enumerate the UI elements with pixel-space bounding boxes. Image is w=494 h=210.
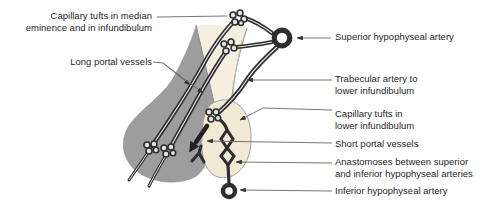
label-trabecular-artery: Trabecular artery to lower infundibulum (335, 73, 418, 96)
leader-capillary-lower (240, 108, 332, 120)
label-inferior-hypophyseal-artery: Inferior hypophyseal artery (335, 185, 447, 197)
label-anastomoses: Anastomoses between superior and inferio… (335, 156, 473, 179)
anterior-lobe-shape (123, 26, 214, 182)
leader-inferior-artery (240, 190, 332, 191)
label-capillary-tufts-lower: Capillary tufts in lower infundibulum (335, 108, 414, 131)
leader-long-portal-stem (153, 62, 163, 63)
diagram-canvas: Capillary tufts in median eminence and i… (0, 0, 494, 210)
label-superior-hypophyseal-artery: Superior hypophyseal artery (335, 31, 454, 43)
leader-anastomoses (236, 162, 332, 163)
superior-hypophyseal-artery-ring (274, 30, 290, 46)
capillary-tuft-median-1 (230, 10, 247, 26)
label-short-portal-vessels: Short portal vessels (335, 138, 418, 150)
inferior-hypophyseal-artery-ring (223, 185, 235, 197)
leader-capillary-median (157, 16, 227, 17)
label-capillary-tufts-median: Capillary tufts in median eminence and i… (26, 10, 152, 33)
label-long-portal-vessels: Long portal vessels (70, 56, 152, 68)
